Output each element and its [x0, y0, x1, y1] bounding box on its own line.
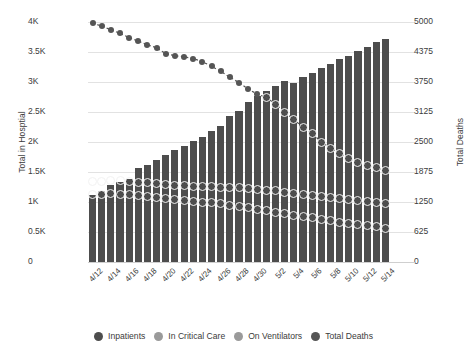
critical-care-marker[interactable] — [88, 177, 97, 186]
total-deaths-marker[interactable] — [209, 63, 215, 69]
critical-care-marker[interactable] — [125, 177, 134, 186]
ventilator-marker[interactable] — [134, 191, 143, 200]
bar[interactable] — [245, 102, 252, 262]
total-deaths-marker[interactable] — [299, 123, 308, 132]
legend-label: On Ventilators — [248, 331, 302, 341]
critical-care-marker[interactable] — [134, 178, 143, 187]
bar[interactable] — [98, 191, 105, 262]
total-deaths-marker[interactable] — [227, 74, 233, 80]
legend-item[interactable]: In Critical Care — [154, 331, 225, 341]
ventilator-marker[interactable] — [235, 202, 244, 211]
total-deaths-marker[interactable] — [245, 86, 251, 92]
y-axis-left-tick: 2K — [28, 137, 38, 146]
total-deaths-marker[interactable] — [271, 100, 280, 109]
critical-care-marker[interactable] — [106, 176, 115, 185]
ventilator-marker[interactable] — [381, 224, 390, 233]
total-deaths-marker[interactable] — [317, 138, 326, 147]
total-deaths-marker[interactable] — [172, 53, 178, 59]
total-deaths-marker[interactable] — [163, 51, 169, 57]
y-axis-right-tick: 625 — [414, 227, 428, 236]
bar[interactable] — [254, 96, 261, 262]
critical-care-marker[interactable] — [289, 189, 298, 198]
bar[interactable] — [171, 150, 178, 262]
legend-item[interactable]: On Ventilators — [234, 331, 302, 341]
total-deaths-marker[interactable] — [236, 80, 242, 86]
bar[interactable] — [290, 83, 297, 262]
total-deaths-marker[interactable] — [381, 166, 390, 175]
total-deaths-marker[interactable] — [326, 144, 335, 153]
critical-care-marker[interactable] — [116, 176, 125, 185]
ventilator-marker[interactable] — [299, 212, 308, 221]
total-deaths-marker[interactable] — [280, 108, 289, 117]
total-deaths-marker[interactable] — [199, 59, 205, 65]
bar[interactable] — [318, 68, 325, 262]
critical-care-marker[interactable] — [253, 185, 262, 194]
critical-care-marker[interactable] — [97, 177, 106, 186]
ventilator-marker[interactable] — [225, 201, 234, 210]
ventilator-marker[interactable] — [97, 190, 106, 199]
critical-care-marker[interactable] — [308, 191, 317, 200]
critical-care-marker[interactable] — [363, 197, 372, 206]
plot-area: 00.5K1K1.5K2K2.5K3K3.5K4K062512501875250… — [0, 0, 467, 351]
ventilator-marker[interactable] — [253, 205, 262, 214]
bar[interactable] — [309, 73, 316, 262]
total-deaths-marker[interactable] — [135, 38, 141, 44]
ventilator-marker[interactable] — [116, 190, 125, 199]
critical-care-marker[interactable] — [262, 186, 271, 195]
total-deaths-marker[interactable] — [99, 23, 105, 29]
critical-care-marker[interactable] — [244, 184, 253, 193]
legend-swatch-circle-icon — [154, 332, 163, 341]
total-deaths-marker[interactable] — [108, 27, 114, 33]
bar[interactable] — [89, 195, 96, 262]
bar[interactable] — [208, 131, 215, 262]
critical-care-marker[interactable] — [372, 198, 381, 207]
total-deaths-marker[interactable] — [262, 93, 271, 102]
total-deaths-marker[interactable] — [335, 149, 344, 158]
ventilator-marker[interactable] — [317, 215, 326, 224]
y-axis-right-tick: 2500 — [414, 137, 433, 146]
critical-care-marker[interactable] — [180, 181, 189, 190]
ventilator-marker[interactable] — [143, 192, 152, 201]
bar[interactable] — [217, 126, 224, 262]
critical-care-marker[interactable] — [235, 183, 244, 192]
y-axis-right-tick: 1250 — [414, 197, 433, 206]
y-axis-left-tick: 0 — [28, 257, 33, 266]
ventilator-marker[interactable] — [363, 221, 372, 230]
bar[interactable] — [354, 51, 361, 262]
bar[interactable] — [272, 86, 279, 262]
total-deaths-marker[interactable] — [117, 30, 123, 36]
critical-care-marker[interactable] — [317, 192, 326, 201]
bar[interactable] — [336, 59, 343, 262]
critical-care-marker[interactable] — [381, 199, 390, 208]
critical-care-marker[interactable] — [280, 188, 289, 197]
total-deaths-marker[interactable] — [218, 68, 224, 74]
ventilator-marker[interactable] — [271, 208, 280, 217]
critical-care-marker[interactable] — [152, 179, 161, 188]
ventilator-marker[interactable] — [125, 190, 134, 199]
bar[interactable] — [162, 155, 169, 262]
ventilator-marker[interactable] — [180, 196, 189, 205]
total-deaths-marker[interactable] — [126, 35, 132, 41]
bar[interactable] — [153, 160, 160, 262]
total-deaths-marker[interactable] — [190, 56, 196, 62]
ventilator-marker[interactable] — [244, 203, 253, 212]
total-deaths-marker[interactable] — [181, 54, 187, 60]
critical-care-marker[interactable] — [198, 182, 207, 191]
ventilator-marker[interactable] — [189, 197, 198, 206]
legend-item[interactable]: Inpatients — [94, 331, 145, 341]
bar[interactable] — [327, 64, 334, 262]
total-deaths-marker[interactable] — [154, 45, 160, 51]
ventilator-marker[interactable] — [198, 198, 207, 207]
total-deaths-marker[interactable] — [308, 129, 317, 138]
total-deaths-marker[interactable] — [144, 42, 150, 48]
critical-care-marker[interactable] — [299, 190, 308, 199]
critical-care-marker[interactable] — [189, 182, 198, 191]
legend-item[interactable]: Total Deaths — [311, 331, 373, 341]
critical-care-marker[interactable] — [326, 193, 335, 202]
bar[interactable] — [263, 91, 270, 262]
total-deaths-marker[interactable] — [90, 20, 96, 26]
ventilator-marker[interactable] — [335, 218, 344, 227]
total-deaths-marker[interactable] — [363, 161, 372, 170]
bar[interactable] — [299, 77, 306, 262]
critical-care-marker[interactable] — [216, 183, 225, 192]
